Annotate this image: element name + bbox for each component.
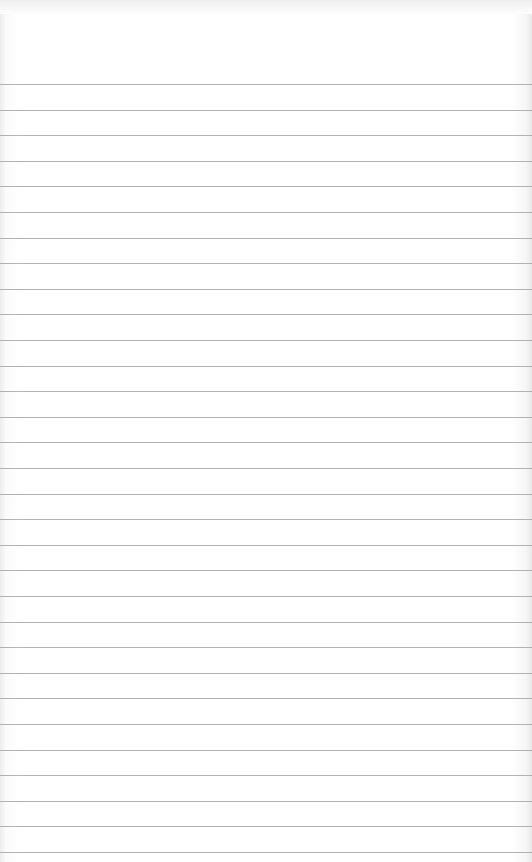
paper-top-edge <box>0 0 532 14</box>
ruled-line <box>0 238 532 239</box>
ruled-line <box>0 750 532 751</box>
ruled-line <box>0 110 532 111</box>
ruled-line <box>0 186 532 187</box>
ruled-line <box>0 289 532 290</box>
ruled-line <box>0 519 532 520</box>
ruled-line <box>0 84 532 85</box>
ruled-line <box>0 468 532 469</box>
ruled-line <box>0 622 532 623</box>
ruled-line <box>0 417 532 418</box>
ruled-line <box>0 673 532 674</box>
ruled-line <box>0 775 532 776</box>
ruled-line <box>0 545 532 546</box>
ruled-line <box>0 442 532 443</box>
ruled-line <box>0 570 532 571</box>
ruled-line <box>0 161 532 162</box>
ruled-line <box>0 596 532 597</box>
ruled-line <box>0 826 532 827</box>
ruled-line <box>0 212 532 213</box>
ruled-line <box>0 263 532 264</box>
ruled-line <box>0 494 532 495</box>
ruled-paper <box>0 0 532 862</box>
ruled-line <box>0 647 532 648</box>
ruled-line <box>0 852 532 853</box>
ruled-line <box>0 698 532 699</box>
ruled-line <box>0 391 532 392</box>
ruled-line <box>0 801 532 802</box>
ruled-line <box>0 366 532 367</box>
ruled-line <box>0 135 532 136</box>
ruled-line <box>0 314 532 315</box>
ruled-line <box>0 340 532 341</box>
ruled-line <box>0 724 532 725</box>
